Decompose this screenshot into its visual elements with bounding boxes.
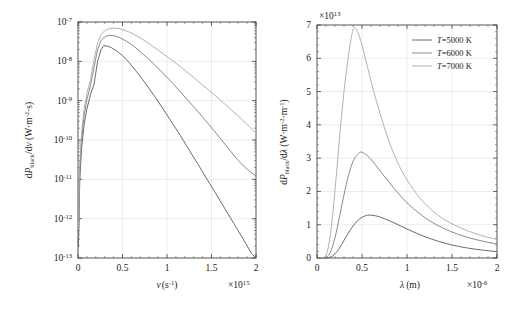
wavelength-x-axis-label: λ(m) xyxy=(399,280,420,291)
x-tick-label: 0 xyxy=(315,263,320,273)
frequency-x-tick-labels: 00.511.52 xyxy=(76,263,259,273)
x-tick-label: 0.5 xyxy=(117,263,129,273)
y-tick-label: 3 xyxy=(306,153,311,163)
y-tick-label: 10-12 xyxy=(54,213,72,224)
x-tick-label: 0.5 xyxy=(356,263,368,273)
curve-t-6000-k xyxy=(322,152,498,258)
wavelength-y-multiplier: ×1013 xyxy=(319,10,341,21)
y-tick-label: 10-7 xyxy=(57,16,73,27)
y-tick-label: 10-10 xyxy=(54,134,73,145)
y-tick-label: 10-11 xyxy=(54,173,72,184)
x-tick-label: 0 xyxy=(76,263,81,273)
legend-label: T=6000 K xyxy=(437,48,473,58)
y-tick-label: 6 xyxy=(306,53,311,63)
y-tick-label: 10-8 xyxy=(57,55,73,66)
wavelength-y-axis-label: dPblack/dλ (W·m-2·m-1) xyxy=(278,99,290,185)
x-tick-label: 1.5 xyxy=(206,263,218,273)
wavelength-x-multiplier: ×10-6 xyxy=(467,279,488,290)
x-tick-label: 1.5 xyxy=(446,263,458,273)
legend-label: T=7000 K xyxy=(437,61,473,71)
y-tick-label: 10-9 xyxy=(57,95,73,106)
wavelength-x-tick-labels: 00.511.52 xyxy=(315,263,500,273)
y-tick-label: 0 xyxy=(306,253,311,263)
y-tick-label: 7 xyxy=(306,20,311,30)
frequency-x-multiplier: ×1015 xyxy=(228,279,250,290)
panel-wavelength-spectrum: 00.511.52 01234567 ×1013 λ(m) ×10-6 dPbl… xyxy=(262,0,520,311)
frequency-chart-svg: 00.511.52 10-710-810-910-1010-1110-1210-… xyxy=(0,0,262,311)
wavelength-y-tick-labels: 01234567 xyxy=(306,20,311,263)
wavelength-chart-svg: 00.511.52 01234567 ×1013 λ(m) ×10-6 dPbl… xyxy=(262,0,520,311)
frequency-y-axis-label: dPblack/dν (W·m-2·s) xyxy=(23,102,35,178)
y-tick-label: 4 xyxy=(306,120,311,130)
x-tick-label: 2 xyxy=(495,263,500,273)
y-tick-label: 5 xyxy=(306,87,311,97)
y-tick-label: 10-13 xyxy=(54,252,73,263)
x-tick-label: 1 xyxy=(405,263,410,273)
x-tick-label: 1 xyxy=(165,263,170,273)
x-tick-label: 2 xyxy=(254,263,259,273)
frequency-y-tick-labels: 10-710-810-910-1010-1110-1210-13 xyxy=(54,16,73,263)
frequency-x-axis-label: ν(s-1) xyxy=(157,279,178,291)
frequency-gridlines xyxy=(78,22,256,258)
wavelength-gridlines xyxy=(317,25,497,258)
y-tick-label: 1 xyxy=(306,220,311,230)
curve-t-5000-k xyxy=(322,215,498,258)
legend-label: T=5000 K xyxy=(437,35,473,45)
y-tick-label: 2 xyxy=(306,186,311,196)
panel-frequency-spectrum: 00.511.52 10-710-810-910-1010-1110-1210-… xyxy=(0,0,262,311)
blackbody-radiation-figure: 00.511.52 10-710-810-910-1010-1110-1210-… xyxy=(0,0,520,311)
legend: T=5000 KT=6000 KT=7000 K xyxy=(412,35,473,71)
